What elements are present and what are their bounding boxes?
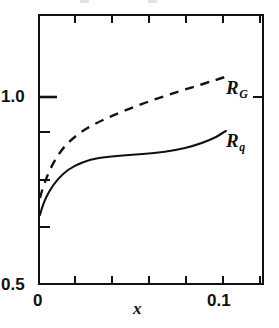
series-label-r-g-base: R xyxy=(226,77,239,98)
series-label-r-q: Rq xyxy=(226,131,245,150)
x-axis-ticks xyxy=(75,276,260,284)
curve-r-q xyxy=(40,131,226,215)
x-axis-ticks-top xyxy=(75,15,260,23)
x-tick-label-1: 0.1 xyxy=(207,292,231,309)
series-label-r-g-sub: G xyxy=(239,87,248,101)
figure-root: 1.0 0.5 0 0.1 x RG Rq xyxy=(0,0,279,328)
y-tick-label-0: 0.5 xyxy=(1,276,25,293)
series-label-r-g: RG xyxy=(226,78,247,97)
series-label-r-q-base: R xyxy=(226,130,239,151)
x-tick-label-0: 0 xyxy=(33,292,42,309)
series-label-r-q-sub: q xyxy=(239,140,245,154)
plot-canvas xyxy=(0,0,279,328)
curve-r-g xyxy=(40,77,225,198)
y-tick-label-1: 1.0 xyxy=(1,88,25,105)
x-axis-name: x xyxy=(133,300,142,317)
